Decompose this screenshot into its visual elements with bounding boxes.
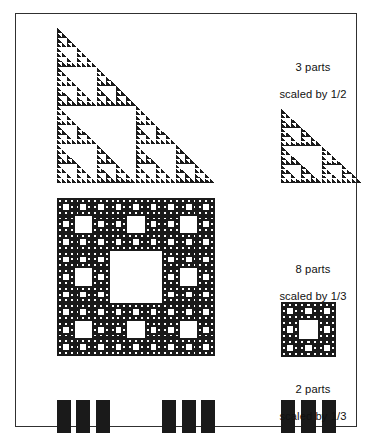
cantor-set-large-svg bbox=[57, 400, 215, 433]
caption-triangle-line1: 3 parts bbox=[258, 61, 368, 74]
sierpinski-carpet-large-svg bbox=[57, 198, 215, 356]
caption-carpet: 8 parts scaled by 1/3 bbox=[258, 250, 368, 317]
caption-cantor: 2 parts scaled by 1/3 bbox=[258, 370, 368, 437]
sierpinski-triangle-large bbox=[57, 28, 215, 183]
caption-cantor-line2: scaled by 1/3 bbox=[258, 410, 368, 423]
caption-triangle-line2: scaled by 1/2 bbox=[258, 88, 368, 101]
figure-frame: 3 parts scaled by 1/2 8 parts scaled by … bbox=[15, 13, 357, 427]
caption-carpet-line2: scaled by 1/3 bbox=[258, 290, 368, 303]
caption-cantor-line1: 2 parts bbox=[258, 383, 368, 396]
caption-triangle: 3 parts scaled by 1/2 bbox=[258, 48, 368, 115]
figure-root: 3 parts scaled by 1/2 8 parts scaled by … bbox=[0, 0, 374, 438]
sierpinski-triangle-small-svg bbox=[281, 109, 362, 183]
sierpinski-triangle-large-svg bbox=[57, 28, 215, 183]
cantor-set-large bbox=[57, 400, 215, 433]
sierpinski-triangle-small bbox=[281, 109, 362, 183]
sierpinski-carpet-large bbox=[57, 198, 215, 356]
caption-carpet-line1: 8 parts bbox=[258, 263, 368, 276]
